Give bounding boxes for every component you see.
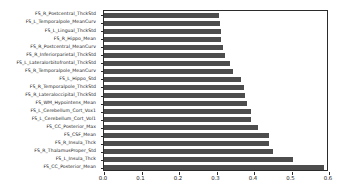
bar-fill	[104, 141, 269, 146]
y-tick-FS_L_Insula_Thck	[101, 160, 104, 161]
bar-FS_R_Postcentral_MeanCurv	[104, 45, 223, 50]
bar-FS_WM_Hypointens_Mean	[104, 101, 247, 106]
bar-FS_L_Lateralorbitofrontal_ThckStd	[104, 61, 230, 66]
bar-fill	[104, 85, 244, 90]
bar-fill	[104, 21, 220, 26]
y-tick-label-FS_WM_Hypointens_Mean: FS_WM_Hypointens_Mean	[36, 100, 96, 105]
y-tick-label-FS_CC_Posterior_Mean: FS_CC_Posterior_Mean	[43, 164, 96, 169]
y-tick-label-FS_L_Cerebellum_Cort_Vol1: FS_L_Cerebellum_Cort_Vol1	[32, 116, 96, 121]
y-tick-FS_R_Inferiorparietal_ThckStd	[101, 55, 104, 56]
y-tick-FS_R_Lateraloccipital_ThckStd	[101, 96, 104, 97]
y-tick-label-FS_R_Temporalpole_ThckStd: FS_R_Temporalpole_ThckStd	[30, 84, 96, 89]
bar-FS_L_Cerebellum_Cort_Vol1	[104, 117, 251, 122]
y-tick-label-FS_R_Temporalpole_MeanCurv: FS_R_Temporalpole_MeanCurv	[25, 68, 96, 73]
bar-FS_R_Hippo_Mean	[104, 37, 221, 42]
bar-fill	[104, 125, 258, 130]
bar-FS_CC_Posterior_Mean	[104, 165, 324, 170]
y-tick-label-FS_L_Insula_Thck: FS_L_Insula_Thck	[56, 156, 96, 161]
y-axis-labels: FS_R_Postcentral_ThckStdFS_L_Temporalpol…	[0, 10, 100, 171]
bar-FS_R_Lateraloccipital_ThckStd	[104, 93, 245, 98]
y-tick-label-FS_L_Cerebellum_Cort_Vox1: FS_L_Cerebellum_Cort_Vox1	[30, 108, 96, 113]
y-tick-FS_R_Hippo_Mean	[101, 39, 104, 40]
bar-fill	[104, 157, 293, 162]
bar-FS_L_Insula_Thck	[104, 157, 293, 162]
x-tick-label-0.0: 0.0	[99, 175, 108, 181]
bar-fill	[104, 61, 230, 66]
bar-fill	[104, 133, 269, 138]
bar-fill	[104, 53, 225, 58]
y-tick-label-FS_L_Lingual_ThckStd: FS_L_Lingual_ThckStd	[45, 28, 96, 33]
y-tick-FS_L_Lingual_ThckStd	[101, 31, 104, 32]
bar-FS_R_Insula_Thck	[104, 141, 269, 146]
y-tick-FS_WM_Hypointens_Mean	[101, 104, 104, 105]
x-tick-label-0.5: 0.5	[286, 175, 295, 181]
y-tick-FS_L_Temporalpole_MeanCurv	[101, 23, 104, 24]
x-tick-label-0.6: 0.6	[324, 175, 333, 181]
bar-FS_R_Temporalpole_ThckStd	[104, 85, 244, 90]
bar-FS_R_Postcentral_ThckStd	[104, 13, 219, 18]
bar-fill	[104, 69, 233, 74]
y-tick-label-FS_R_ThalamusProper_Std: FS_R_ThalamusProper_Std	[34, 148, 96, 153]
y-tick-label-FS_L_Lateralorbitofrontal_ThckStd: FS_L_Lateralorbitofrontal_ThckStd	[16, 60, 96, 65]
y-tick-FS_R_Postcentral_ThckStd	[101, 15, 104, 16]
y-tick-label-FS_L_Temporalpole_MeanCurv: FS_L_Temporalpole_MeanCurv	[26, 19, 96, 24]
bar-fill	[104, 13, 219, 18]
y-tick-FS_L_Lateralorbitofrontal_ThckStd	[101, 63, 104, 64]
y-tick-FS_R_ThalamusProper_Std	[101, 152, 104, 153]
y-tick-FS_CC_Posterior_Max	[101, 128, 104, 129]
y-tick-label-FS_R_Postcentral_MeanCurv: FS_R_Postcentral_MeanCurv	[30, 44, 96, 49]
bar-fill	[104, 165, 324, 170]
y-tick-label-FS_R_Insula_Thck: FS_R_Insula_Thck	[55, 140, 96, 145]
x-tick-label-0.2: 0.2	[174, 175, 183, 181]
bar-FS_R_Inferiorparietal_ThckStd	[104, 53, 225, 58]
y-tick-FS_R_Postcentral_MeanCurv	[101, 47, 104, 48]
x-tick-label-0.1: 0.1	[136, 175, 145, 181]
bar-FS_L_Cerebellum_Cort_Vox1	[104, 109, 251, 114]
horizontal-bar-chart: FS_R_Postcentral_ThckStdFS_L_Temporalpol…	[0, 0, 338, 195]
y-tick-FS_CC_Posterior_Mean	[101, 168, 104, 169]
bar-FS_L_Hippo_Std	[104, 77, 241, 82]
y-tick-FS_R_Insula_Thck	[101, 144, 104, 145]
y-tick-label-FS_CC_Posterior_Max: FS_CC_Posterior_Max	[46, 124, 96, 129]
bar-fill	[104, 101, 247, 106]
bar-fill	[104, 77, 241, 82]
y-tick-label-FS_R_Lateraloccipital_ThckStd: FS_R_Lateraloccipital_ThckStd	[25, 92, 96, 97]
x-tick-label-0.4: 0.4	[249, 175, 258, 181]
y-tick-FS_L_Cerebellum_Cort_Vox1	[101, 112, 104, 113]
y-tick-label-FS_R_Inferiorparietal_ThckStd: FS_R_Inferiorparietal_ThckStd	[26, 52, 96, 57]
y-tick-label-FS_L_Hippo_Std: FS_L_Hippo_Std	[59, 76, 96, 81]
plot-area	[103, 10, 328, 171]
bar-FS_L_Temporalpole_MeanCurv	[104, 21, 220, 26]
bar-FS_CSF_Mean	[104, 133, 269, 138]
y-tick-FS_L_Hippo_Std	[101, 79, 104, 80]
bar-fill	[104, 149, 273, 154]
bar-fill	[104, 45, 223, 50]
y-tick-label-FS_R_Hippo_Mean: FS_R_Hippo_Mean	[54, 36, 96, 41]
bar-fill	[104, 93, 245, 98]
bar-FS_R_ThalamusProper_Std	[104, 149, 273, 154]
bar-fill	[104, 109, 251, 114]
y-tick-FS_L_Cerebellum_Cort_Vol1	[101, 120, 104, 121]
y-tick-FS_R_Temporalpole_MeanCurv	[101, 71, 104, 72]
bar-fill	[104, 117, 251, 122]
bar-FS_L_Lingual_ThckStd	[104, 29, 221, 34]
bar-fill	[104, 29, 221, 34]
y-tick-FS_R_Temporalpole_ThckStd	[101, 87, 104, 88]
x-tick-label-0.3: 0.3	[211, 175, 220, 181]
y-tick-FS_CSF_Mean	[101, 136, 104, 137]
y-tick-label-FS_R_Postcentral_ThckStd: FS_R_Postcentral_ThckStd	[35, 11, 96, 16]
y-tick-label-FS_CSF_Mean: FS_CSF_Mean	[64, 132, 96, 137]
bar-fill	[104, 37, 221, 42]
bar-FS_R_Temporalpole_MeanCurv	[104, 69, 233, 74]
bar-FS_CC_Posterior_Max	[104, 125, 258, 130]
